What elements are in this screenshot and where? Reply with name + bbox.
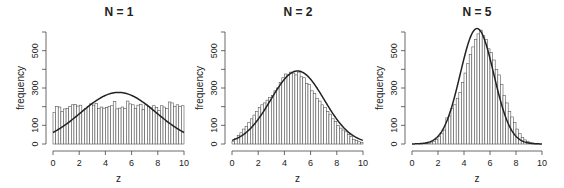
histogram-bar — [360, 143, 363, 144]
histogram-bar — [305, 83, 308, 144]
histogram-bar — [103, 108, 106, 144]
histogram-bar — [339, 128, 342, 144]
x-axis-label: z — [475, 173, 480, 184]
histogram-bar — [477, 34, 480, 144]
x-tick-label: 6 — [129, 158, 134, 168]
x-tick-label: 8 — [513, 158, 518, 168]
histogram-bar — [87, 107, 90, 144]
x-tick-label: 4 — [103, 158, 108, 168]
histogram-bar — [334, 122, 337, 144]
x-axis: 0246810z — [409, 151, 547, 184]
histogram-bar — [79, 105, 82, 144]
histogram-bar — [77, 106, 80, 144]
x-tick-label: 2 — [435, 158, 440, 168]
y-tick-label: 300 — [389, 80, 399, 95]
histogram-bar — [139, 104, 142, 144]
histogram-bar — [290, 72, 293, 144]
histogram-bar — [313, 94, 316, 144]
x-tick-label: 10 — [537, 158, 547, 168]
histogram-bar — [474, 39, 477, 144]
histogram-bar — [456, 98, 459, 144]
histogram-bar — [111, 106, 114, 144]
histogram-bar — [443, 130, 446, 144]
x-tick-label: 4 — [461, 158, 466, 168]
y-axis-label: frequency — [15, 66, 26, 110]
histogram-bar — [433, 141, 436, 144]
histogram-bar — [98, 109, 101, 144]
y-axis-label: frequency — [194, 66, 205, 110]
x-tick-label: 10 — [179, 158, 189, 168]
histogram-bar — [100, 107, 103, 144]
histogram-bar — [300, 77, 303, 144]
histogram-bar — [353, 139, 356, 144]
histogram-bar — [464, 73, 467, 144]
histogram-bar — [245, 126, 248, 144]
histogram-bar — [69, 107, 72, 144]
histogram-bar — [282, 78, 285, 144]
histogram-bar — [324, 108, 327, 144]
y-tick-label: 500 — [389, 43, 399, 58]
histogram-bar — [441, 134, 444, 144]
histogram-bar — [469, 54, 472, 144]
histogram-bar — [487, 49, 490, 144]
histogram-bar — [232, 141, 235, 144]
histogram-bar — [132, 105, 135, 144]
histogram-bar — [124, 109, 127, 144]
histogram-bar — [503, 95, 506, 144]
histogram-bar — [74, 104, 77, 144]
x-tick-label: 0 — [409, 158, 414, 168]
histogram-bar — [461, 82, 464, 144]
histogram-bar — [105, 107, 108, 144]
y-tick-label: 500 — [30, 43, 40, 58]
histogram-bar — [342, 130, 345, 144]
y-tick-label: 0 — [30, 141, 40, 146]
histogram-bar — [279, 82, 282, 144]
histogram-bar — [126, 101, 129, 144]
y-tick-label: 100 — [209, 118, 219, 133]
histogram-bar — [321, 105, 324, 144]
histogram-bar — [454, 105, 457, 144]
panel-n2: N = 20100300500frequency0246810z — [194, 5, 368, 184]
histogram-bar — [250, 119, 253, 144]
histogram-bar — [287, 75, 290, 144]
histogram-bar — [467, 64, 470, 144]
histogram-bar — [137, 105, 140, 144]
histogram-bar — [332, 119, 335, 144]
histogram-bar — [347, 135, 350, 144]
histogram-bar — [147, 107, 150, 144]
x-tick-label: 2 — [77, 158, 82, 168]
histogram-bar — [129, 104, 132, 144]
bars — [232, 72, 363, 144]
histogram-bar — [240, 133, 243, 144]
bars — [420, 30, 540, 144]
histogram-bar — [316, 98, 319, 144]
histogram-bar — [71, 105, 74, 144]
x-tick-label: 8 — [155, 158, 160, 168]
y-axis: 0100300500frequency — [15, 32, 46, 147]
histogram-bar — [438, 137, 441, 144]
x-tick-label: 10 — [358, 158, 368, 168]
histogram-bar — [318, 101, 321, 144]
histogram-bar — [84, 109, 87, 144]
x-tick-label: 8 — [334, 158, 339, 168]
histogram-bar — [66, 109, 69, 144]
histogram-bar — [345, 132, 348, 144]
histogram-bar — [56, 107, 59, 144]
histogram-bar — [174, 107, 177, 144]
histogram-bar — [448, 116, 451, 144]
histogram-bar — [163, 107, 166, 144]
y-axis: 0100300500frequency — [194, 32, 225, 147]
histogram-bar — [303, 78, 306, 144]
histogram-bar — [150, 108, 153, 144]
histogram-bar — [160, 106, 163, 144]
histogram-bar — [430, 142, 433, 144]
histogram-bar — [108, 107, 111, 144]
histogram-bar — [498, 75, 501, 144]
bars — [53, 101, 184, 144]
histogram-bar — [485, 39, 488, 144]
x-axis-label: z — [295, 173, 300, 184]
histogram-bar — [459, 93, 462, 144]
y-tick-label: 0 — [389, 141, 399, 146]
histogram-bar — [179, 107, 182, 144]
histogram-bar — [181, 106, 184, 144]
